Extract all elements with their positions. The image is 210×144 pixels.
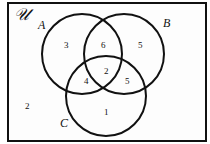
region-outside: 2 xyxy=(25,101,30,111)
region-a-b-c: 2 xyxy=(104,66,109,76)
set-a-circle xyxy=(42,14,122,94)
set-b-circle xyxy=(84,14,164,94)
set-c-label: C xyxy=(60,116,69,130)
region-c-only: 1 xyxy=(104,107,109,117)
region-a-only: 3 xyxy=(64,40,69,50)
region-a-b: 6 xyxy=(101,40,106,50)
region-a-c: 4 xyxy=(84,76,89,86)
set-b-label: B xyxy=(163,16,171,30)
venn-diagram: 𝒰 A B C 3 5 1 6 4 5 2 2 xyxy=(0,0,210,144)
set-a-label: A xyxy=(37,18,46,32)
region-b-only: 5 xyxy=(138,40,143,50)
universe-label: 𝒰 xyxy=(14,5,34,24)
region-b-c: 5 xyxy=(125,76,130,86)
